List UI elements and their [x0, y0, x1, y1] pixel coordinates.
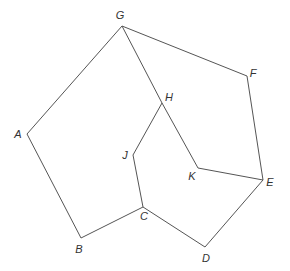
edge-f-g: [122, 26, 247, 76]
vertex-label-k: K: [188, 171, 195, 182]
edge-k-e: [198, 168, 263, 180]
vertex-label-f: F: [250, 68, 257, 79]
vertex-label-e: E: [266, 177, 273, 188]
edge-h-j: [133, 103, 162, 155]
vertex-label-a: A: [14, 129, 21, 140]
graph-edges: [0, 0, 290, 271]
vertex-label-b: B: [75, 244, 82, 255]
vertex-label-g: G: [116, 10, 125, 21]
vertex-label-j: J: [122, 150, 128, 161]
edge-j-c: [133, 155, 143, 207]
edge-d-e: [205, 180, 263, 247]
edge-c-d: [143, 207, 205, 247]
edge-g-h: [122, 26, 162, 103]
vertex-label-d: D: [202, 253, 210, 264]
graph-diagram: ABCDEFGHJK: [0, 0, 290, 271]
edge-b-c: [81, 207, 143, 238]
edge-h-k: [162, 103, 198, 168]
vertex-label-c: C: [140, 211, 148, 222]
vertex-label-h: H: [165, 92, 173, 103]
edge-e-f: [247, 76, 263, 180]
edge-g-a: [27, 26, 122, 134]
edge-a-b: [27, 134, 81, 238]
